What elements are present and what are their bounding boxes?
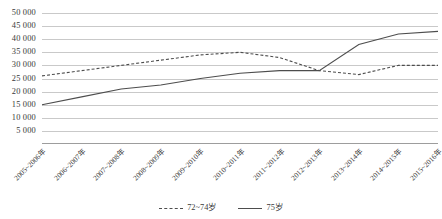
line-chart: 50 00045 00040 00035 00030 00025 00020 0…: [0, 0, 442, 219]
legend-item[interactable]: 75岁: [238, 204, 282, 212]
y-tick-label: 20 000: [12, 87, 36, 95]
y-tick-label: 15 000: [12, 100, 36, 108]
x-tick-label: 2013~2014年: [330, 148, 364, 182]
legend-swatch-dashed-line-icon: [159, 208, 183, 209]
y-tick-label: 30 000: [12, 61, 36, 69]
x-tick-label: 2006~2007年: [52, 148, 86, 182]
x-tick-label: 2008~2009年: [132, 148, 166, 182]
y-tick-label: 35 000: [12, 48, 36, 56]
y-tick-label: 45 000: [12, 22, 36, 30]
plot-area: [42, 13, 438, 144]
y-axis: 50 00045 00040 00035 00030 00025 00020 0…: [0, 0, 42, 219]
x-tick-label: 2007~2008年: [92, 148, 126, 182]
chart-legend: 72~74岁75岁: [0, 199, 442, 217]
x-tick-label: 2014~2015年: [369, 148, 403, 182]
x-tick-label: 2015~2016年: [409, 148, 442, 182]
x-tick-label: 2012~2013年: [290, 148, 324, 182]
y-tick-label: 5 000: [16, 127, 36, 135]
legend-swatch-solid-line-icon: [238, 208, 262, 209]
series-line-75: [42, 31, 438, 104]
legend-label: 72~74岁: [187, 204, 216, 212]
series-line-72-74: [42, 52, 438, 76]
legend-label: 75岁: [266, 204, 282, 212]
x-tick-label: 2011~2012年: [251, 148, 285, 182]
y-tick-label: 10 000: [12, 114, 36, 122]
x-tick-label: 2009~2010年: [171, 148, 205, 182]
y-tick-label: 25 000: [12, 74, 36, 82]
y-tick-label: 40 000: [12, 35, 36, 43]
y-tick-label: 50 000: [12, 9, 36, 17]
series-layer: [42, 13, 438, 144]
x-tick-label: 2010~2011年: [212, 148, 246, 182]
x-axis: 2005~2006年2006~2007年2007~2008年2008~2009年…: [42, 146, 438, 194]
legend-item[interactable]: 72~74岁: [159, 204, 216, 212]
x-axis-line: [42, 143, 438, 144]
